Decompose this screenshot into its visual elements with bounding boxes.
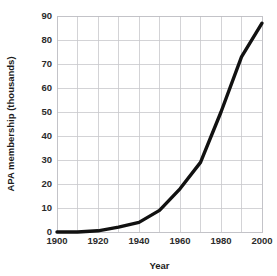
y-tick-label: 50 [41, 106, 52, 117]
y-tick-label: 40 [41, 130, 52, 141]
x-tick-label: 1980 [210, 235, 231, 246]
chart-figure: 190019201940196019802000 010203040506070… [0, 0, 277, 276]
y-tick-label: 90 [41, 10, 52, 21]
y-tick-label: 30 [41, 154, 52, 165]
y-tick-label: 0 [47, 226, 52, 237]
y-tick-label: 80 [41, 34, 52, 45]
x-tick-label: 1940 [128, 235, 149, 246]
y-tick-label: 60 [41, 82, 52, 93]
x-axis-title: Year [149, 260, 169, 271]
x-tick-label: 1960 [169, 235, 190, 246]
y-tick-label: 70 [41, 58, 52, 69]
x-tick-label: 2000 [251, 235, 272, 246]
line-chart: 190019201940196019802000 010203040506070… [0, 0, 277, 276]
y-tick-label: 20 [41, 178, 52, 189]
x-tick-label: 1920 [87, 235, 108, 246]
y-axis-title: APA membership (thousands) [5, 56, 16, 191]
y-tick-label: 10 [41, 202, 52, 213]
